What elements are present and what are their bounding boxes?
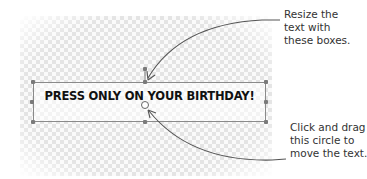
- callout-line: Click and drag: [290, 121, 367, 134]
- callout-move: Click and drag this circle to move the t…: [290, 121, 367, 160]
- callout-line: this circle to: [290, 134, 367, 147]
- callout-line: move the text.: [290, 147, 367, 160]
- callout-line: Resize the: [284, 8, 350, 21]
- arrow-to-resize-handle: [148, 20, 280, 78]
- callout-line: these boxes.: [284, 34, 350, 47]
- callout-resize: Resize the text with these boxes.: [284, 8, 350, 47]
- callout-line: text with: [284, 21, 350, 34]
- arrow-to-move-circle: [149, 111, 286, 160]
